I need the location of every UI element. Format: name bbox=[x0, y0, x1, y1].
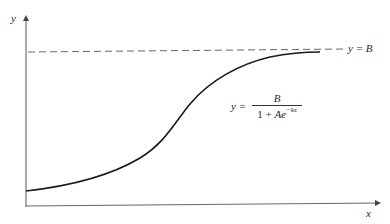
equation-exponent: −kx bbox=[286, 106, 297, 114]
equation-numerator: B bbox=[274, 92, 281, 105]
y-axis-label: y bbox=[11, 12, 16, 24]
denominator-var: Ae bbox=[274, 108, 286, 120]
equation-lhs: y = bbox=[231, 100, 246, 112]
denominator-prefix: 1 + bbox=[257, 108, 274, 120]
logistic-equation: y = B 1 + Ae−kx bbox=[231, 92, 302, 120]
logistic-curve bbox=[26, 52, 320, 191]
equation-fraction: B 1 + Ae−kx bbox=[252, 92, 302, 120]
x-axis-label: x bbox=[366, 207, 371, 219]
x-axis bbox=[26, 203, 378, 206]
asymptote-label: y = B bbox=[348, 42, 373, 54]
asymptote-line bbox=[28, 49, 346, 52]
equation-denominator: 1 + Ae−kx bbox=[257, 106, 297, 120]
logistic-diagram bbox=[0, 0, 390, 224]
